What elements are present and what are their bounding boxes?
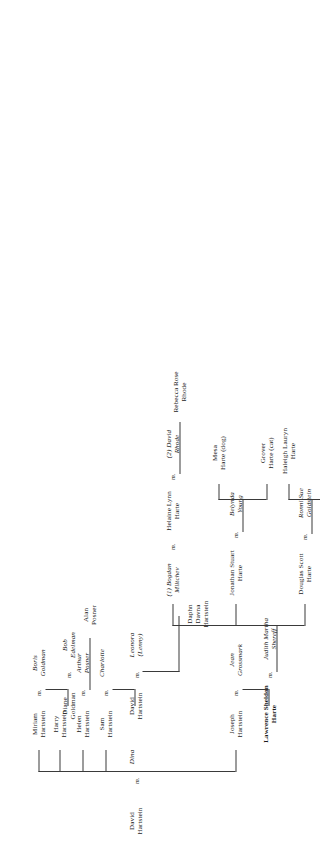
connector-lawrence-children-spine [172, 625, 304, 626]
connector-branch-joseph [235, 750, 236, 772]
person-boris-goldman: Boris Goldman [31, 640, 47, 686]
person-name-line2: Posner [90, 592, 98, 638]
person-jonathan-stuart-harte: Jonathan Stuart Harte [228, 542, 244, 604]
person-name-line2: Harte [270, 682, 278, 746]
person-mesa-harte-dog: Mesa Harte (dog) [211, 424, 227, 482]
family-tree-chart: David Hartstein m. Dina Sam Hartstein m.… [0, 0, 307, 856]
marriage-mark-joseph: m. [232, 690, 239, 696]
person-lawrence-sheldon-harte: Lawrence Sheldon Harte [262, 682, 278, 746]
person-diane-goldman: Diane Goldman [61, 682, 77, 730]
person-rebecca-rose-rhode: Rebecca Rose Rhode [172, 362, 188, 422]
marriage-mark-helaine-1: m. [169, 544, 176, 550]
connector-branch-mesa [218, 484, 219, 500]
marriage-mark-miriam: m. [35, 690, 42, 696]
person-name-line2: Harte (dog) [219, 424, 227, 482]
connector-branch-sam [105, 750, 106, 772]
marriage-mark-david2: m. [133, 672, 140, 678]
person-judith-martha-shereff: Judith Martha Shereff [262, 610, 278, 668]
person-charlotte: Charlotte [98, 640, 106, 686]
tree-canvas: David Hartstein m. Dina Sam Hartstein m.… [0, 0, 307, 856]
person-name-line2: Rhode [180, 362, 188, 422]
connector-branch-haleigh [288, 484, 289, 500]
person-name-line2: (Lenny) [136, 622, 144, 668]
person-ronni-sue-goldstein: Ronni Sue Goldstein [297, 476, 307, 530]
person-grover-harte-cat: Grover Harte (cat) [259, 424, 275, 482]
connector-jonathan-stem [242, 500, 243, 532]
connector-branch-helen [82, 750, 83, 772]
connector-branch-miriam [38, 750, 39, 772]
person-arthur-posner: Arthur Posner [75, 640, 91, 686]
connector-helaine-to-rebecca [179, 422, 180, 474]
person-name-line1: Charlotte [98, 640, 106, 686]
person-name-line2: Harte [236, 542, 244, 604]
person-name-line2: Harte [173, 482, 181, 540]
marriage-mark-jonathan: m. [232, 532, 239, 538]
person-sam-hartstein: Sam Hartstein [98, 700, 114, 748]
connector-branch-grover [266, 484, 267, 500]
connector-jonathan-children-spine [218, 499, 266, 500]
connector-douglas-children-spine [288, 499, 307, 500]
connector-lawrence-stem [276, 626, 277, 672]
person-name-line2: Harte (cat) [267, 424, 275, 482]
person-david-hartstein: David Hartstein [128, 792, 144, 850]
marriage-mark-diane: m. [65, 672, 72, 678]
person-name-line2: Miltchev [173, 552, 181, 608]
person-alan-posner: Alan Posner [82, 592, 98, 638]
marriage-mark-douglas: m. [301, 534, 307, 540]
marriage-mark-helen: m. [79, 690, 86, 696]
person-david-rhode: (2) David Rhode [165, 418, 181, 470]
person-miriam-hartstein: Miriam Hartstein [31, 700, 47, 748]
person-leonora-lenny: Leonora (Lenny) [128, 622, 144, 668]
person-helen-hartstein: Helen Hartstein [75, 700, 91, 748]
person-name-line2: Grossmark [236, 634, 244, 686]
person-name-line2: Harte [289, 420, 297, 482]
person-daphn-davna-hartstein: Daphn Davna Hartstein [186, 590, 210, 638]
person-david-hartstein-2: David Hartstein [128, 682, 144, 730]
person-name-line2: Hartstein [136, 792, 144, 850]
person-name-line1: Dina [128, 740, 136, 774]
person-name-line2: Goldman [69, 682, 77, 730]
person-bob-edelman: Bob Edelman [61, 622, 77, 668]
person-dina: Dina [128, 740, 136, 774]
person-belynda-young: Belynda Young [228, 480, 244, 528]
marriage-mark-sam: m. [102, 690, 109, 696]
person-jean-grossmark: Jean Grossmark [228, 634, 244, 686]
person-name-line2: Hartstein [136, 682, 144, 730]
person-name-line2: Hartstein [106, 700, 114, 748]
person-douglas-scott-harte: Douglas Scott Harte [297, 544, 307, 604]
connector-sibling-spine-gen2 [38, 771, 235, 772]
person-name-line2: Edelman [69, 622, 77, 668]
person-name-line2: Hartstein [83, 700, 91, 748]
connector-branch-douglas [304, 604, 305, 626]
marriage-mark-helaine-2: m. [169, 474, 176, 480]
marriage-mark-lawrence: m. [266, 672, 273, 678]
person-haleigh-lauryn-harte: Haleigh Lauryn Harte [281, 420, 297, 482]
person-name-line2: Hartstein [236, 700, 244, 748]
connector-branch-jonathan [235, 604, 236, 626]
person-helaine-lynn-harte: Helaine Lynn Harte [165, 482, 181, 540]
person-name-line2: Goldstein [305, 476, 307, 530]
person-bogdan-miltchev: (1) Bogdan Miltchev [165, 552, 181, 608]
person-joseph-hartstein: Joseph Hartstein [228, 700, 244, 748]
person-name-line2: Hartstein [39, 700, 47, 748]
connector-helen-alan-bus [89, 638, 90, 690]
person-name-line3: Hartstein [202, 590, 210, 638]
connector-branch-harry [59, 750, 60, 772]
person-name-line2: Goldman [39, 640, 47, 686]
marriage-mark-root: m. [133, 778, 140, 784]
connector-david2-drop [142, 671, 179, 672]
